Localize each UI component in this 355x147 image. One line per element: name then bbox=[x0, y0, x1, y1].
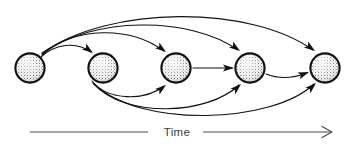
edge-node1-to-node3 bbox=[42, 33, 168, 55]
arrowhead-icon bbox=[155, 43, 168, 55]
node-3[interactable] bbox=[160, 52, 193, 85]
arrowhead-icon bbox=[230, 81, 243, 94]
time-progression-diagram: Time bbox=[0, 0, 355, 147]
edge-path bbox=[42, 33, 164, 55]
arrowhead-icon bbox=[304, 42, 317, 54]
time-axis-label: Time bbox=[164, 126, 190, 138]
edge-path bbox=[42, 25, 238, 54]
time-axis: Time bbox=[30, 126, 332, 138]
node-2[interactable] bbox=[87, 52, 120, 85]
arrowhead-icon bbox=[82, 44, 95, 56]
edge-path bbox=[93, 83, 239, 109]
edge-path bbox=[94, 84, 314, 116]
node-layer bbox=[14, 52, 342, 85]
edge-path bbox=[41, 45, 91, 57]
arrowhead-icon bbox=[297, 69, 310, 80]
node-4[interactable] bbox=[234, 52, 267, 85]
edge-node4-to-node5 bbox=[266, 69, 310, 80]
node-1[interactable] bbox=[14, 52, 47, 85]
arrowhead-icon bbox=[305, 80, 318, 93]
edge-node1-to-node2 bbox=[41, 44, 95, 57]
arrowhead-icon bbox=[229, 42, 242, 54]
figure-root: Time bbox=[0, 0, 355, 147]
edge-node2-to-node5 bbox=[94, 80, 318, 115]
arrowhead-icon bbox=[155, 82, 168, 94]
edge-node3-to-node4 bbox=[193, 64, 234, 71]
node-5[interactable] bbox=[309, 52, 342, 85]
